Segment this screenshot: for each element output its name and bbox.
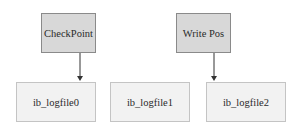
- arrows-layer: [0, 0, 294, 134]
- write-pos-arrow: [211, 53, 217, 81]
- checkpoint-arrow: [77, 53, 83, 81]
